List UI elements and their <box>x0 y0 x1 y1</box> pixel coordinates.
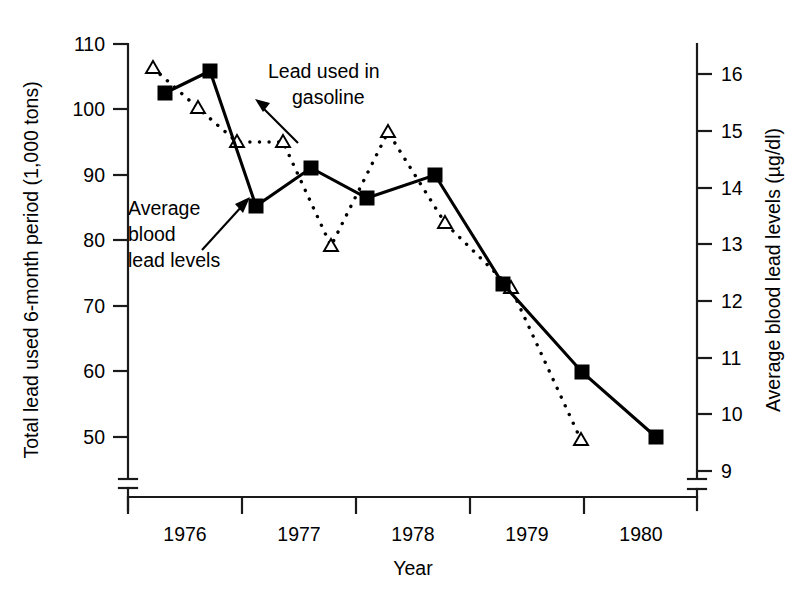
lead-used-point-1 <box>158 86 172 100</box>
right-tick-label-16: 16 <box>721 63 743 85</box>
right-tick-label-14: 14 <box>721 177 743 199</box>
lead-used-point-7 <box>496 277 510 291</box>
x-tick-label-1976: 1976 <box>163 523 206 545</box>
annotation-blood-line-1: Average <box>128 197 200 219</box>
annotation-gasoline-arrow-head <box>255 99 270 112</box>
left-tick-label-50: 50 <box>83 426 105 448</box>
blood-lead-point-2 <box>191 101 205 113</box>
left-tick-label-100: 100 <box>72 98 105 120</box>
blood-lead-point-9 <box>574 433 588 445</box>
left-axis: 110 100 90 80 70 60 50 Total lead used 6… <box>20 33 137 510</box>
right-axis-title: Average blood lead levels (µg/dl) <box>762 128 784 412</box>
x-tick-label-1979: 1979 <box>505 523 548 545</box>
annotation-lead-used-in-gasoline: Lead used in gasoline <box>255 60 380 143</box>
right-axis: 16 15 14 13 12 11 10 9 Average blood lea… <box>688 44 784 510</box>
lead-used-point-6 <box>428 168 442 182</box>
left-tick-label-110: 110 <box>74 33 105 55</box>
right-tick-label-13: 13 <box>721 233 743 255</box>
chart-canvas: 110 100 90 80 70 60 50 Total lead used 6… <box>0 0 812 597</box>
annotation-blood-arrow-shaft <box>202 205 243 250</box>
blood-lead-point-6 <box>381 125 395 137</box>
annotation-blood-line-2: blood <box>128 223 176 245</box>
right-tick-label-15: 15 <box>721 120 743 142</box>
lead-used-point-5 <box>360 191 374 205</box>
x-axis-title: Year <box>393 557 433 579</box>
x-tick-label-1980: 1980 <box>619 523 663 545</box>
left-tick-label-70: 70 <box>83 295 105 317</box>
blood-lead-point-5 <box>324 239 338 251</box>
x-axis: 1976 1977 1978 1979 1980 Year <box>128 497 697 579</box>
annotation-gasoline-line-2: gasoline <box>292 86 365 108</box>
series-lead-used-in-gasoline <box>158 64 663 444</box>
lead-used-point-8 <box>575 365 589 379</box>
x-tick-label-1977: 1977 <box>277 523 320 545</box>
left-tick-label-60: 60 <box>83 360 105 382</box>
lead-used-point-4 <box>304 161 318 175</box>
left-tick-label-90: 90 <box>83 164 105 186</box>
right-tick-label-11: 11 <box>721 347 741 369</box>
blood-lead-point-7 <box>438 216 452 228</box>
annotation-average-blood-lead-levels: Average blood lead levels <box>128 197 250 271</box>
left-tick-label-80: 80 <box>83 229 105 251</box>
right-tick-label-9: 9 <box>721 460 732 482</box>
annotation-gasoline-line-1: Lead used in <box>268 60 380 82</box>
lead-used-point-3 <box>249 199 263 213</box>
x-tick-label-1978: 1978 <box>391 523 434 545</box>
lead-used-solid-line <box>165 71 656 437</box>
left-axis-title: Total lead used 6-month period (1,000 to… <box>20 81 42 458</box>
right-tick-label-10: 10 <box>721 403 743 425</box>
blood-lead-point-1 <box>146 61 160 73</box>
chart-figure: 110 100 90 80 70 60 50 Total lead used 6… <box>0 0 812 597</box>
right-tick-label-12: 12 <box>721 290 743 312</box>
lead-used-point-9 <box>649 430 663 444</box>
lead-used-point-2 <box>203 64 217 78</box>
lead-used-markers <box>158 64 663 444</box>
annotation-gasoline-arrow-shaft <box>262 107 298 143</box>
annotation-blood-line-3: lead levels <box>128 249 220 271</box>
